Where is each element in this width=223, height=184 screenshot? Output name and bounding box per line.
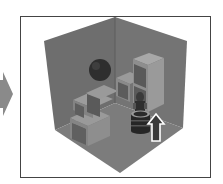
scene-figure [0,0,223,184]
sphere-icon [89,59,111,81]
right-arrow-icon [0,72,13,116]
